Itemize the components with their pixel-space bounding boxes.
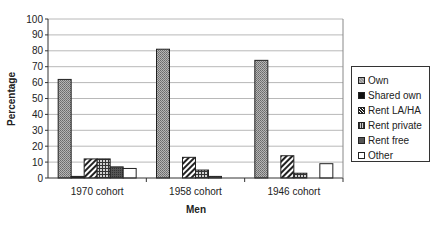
legend-swatch [358,92,365,99]
legend-label: Shared own [368,90,421,101]
legend-item: Other [358,148,429,163]
bar-own [255,60,268,178]
y-tick-label: 90 [32,29,44,40]
y-tick-label: 10 [32,157,44,168]
legend-swatch [358,107,365,114]
legend-label: Rent LA/HA [368,105,421,116]
y-tick-label: 50 [32,93,44,104]
y-axis-title: Percentage [6,72,17,126]
legend-label: Other [368,150,393,161]
legend-label: Rent private [368,120,422,131]
bar-rent-la-ha [84,159,97,178]
y-tick-label: 80 [32,45,44,56]
bar-rent-private [196,170,209,178]
gridlines [48,19,343,162]
bar-rent-private [294,173,307,178]
bar-other [320,164,333,178]
x-category-label: 1970 cohort [71,186,124,197]
y-tick-label: 40 [32,109,44,120]
bar-other [123,168,136,178]
y-tick-label: 60 [32,77,44,88]
bar-rent-la-ha [281,156,294,178]
y-tick-label: 100 [26,14,43,25]
y-tick-label: 70 [32,61,44,72]
legend-item: Shared own [358,88,429,103]
legend-swatch [358,137,365,144]
legend-item: Rent LA/HA [358,103,429,118]
legend-item: Rent private [358,118,429,133]
legend-label: Rent free [368,135,409,146]
bar-rent-free [110,167,123,178]
x-category-label: 1946 cohort [267,186,320,197]
y-tick-label: 0 [37,173,43,184]
bar-rent-la-ha [183,157,196,178]
legend-label: Own [368,75,389,86]
legend-item: Own [358,73,429,88]
legend-swatch [358,122,365,129]
bars [58,49,333,178]
legend-swatch [358,77,365,84]
x-axis-labels: 1970 cohort1958 cohort1946 cohort [71,178,343,197]
bar-rent-private [97,159,110,178]
y-axis-ticks: 0102030405060708090100 [26,14,48,184]
bar-own [157,49,170,178]
y-tick-label: 30 [32,125,44,136]
legend-item: Rent free [358,133,429,148]
bar-own [58,79,71,178]
legend-swatch [358,152,365,159]
x-axis-title: Men [186,204,206,215]
y-tick-label: 20 [32,141,44,152]
x-category-label: 1958 cohort [169,186,222,197]
legend: OwnShared ownRent LA/HARent privateRent … [351,66,430,162]
